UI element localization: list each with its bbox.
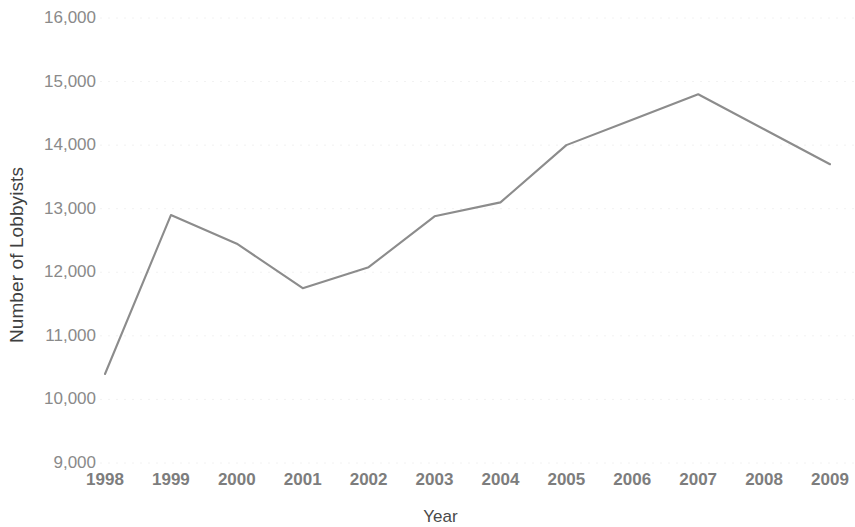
- y-tick-label: 15,000: [10, 73, 96, 90]
- y-tick-label: 9,000: [10, 454, 96, 471]
- y-tick-label: 11,000: [10, 327, 96, 344]
- x-tick-label: 2007: [679, 471, 717, 488]
- x-tick-label: 2003: [416, 471, 454, 488]
- x-axis-tick-labels: 1998199920002001200220032004200520062007…: [0, 471, 855, 497]
- y-tick-label: 12,000: [10, 263, 96, 280]
- x-tick-label: 2004: [482, 471, 520, 488]
- y-tick-label: 16,000: [10, 9, 96, 26]
- line-chart: 9,00010,00011,00012,00013,00014,00015,00…: [0, 0, 855, 527]
- x-tick-label: 2008: [745, 471, 783, 488]
- chart-plot-area: [0, 0, 855, 527]
- y-axis-tick-labels: 9,00010,00011,00012,00013,00014,00015,00…: [0, 0, 96, 527]
- y-tick-label: 13,000: [10, 200, 96, 217]
- x-tick-label: 2002: [350, 471, 388, 488]
- x-tick-label: 2001: [284, 471, 322, 488]
- y-tick-label: 10,000: [10, 390, 96, 407]
- x-tick-label: 1999: [152, 471, 190, 488]
- x-tick-label: 1998: [86, 471, 124, 488]
- y-tick-label: 14,000: [10, 136, 96, 153]
- x-tick-label: 2006: [613, 471, 651, 488]
- x-tick-label: 2000: [218, 471, 256, 488]
- data-series-group: [105, 94, 830, 374]
- x-tick-label: 2005: [547, 471, 585, 488]
- x-tick-label: 2009: [811, 471, 849, 488]
- x-axis-title-text: Year: [423, 508, 457, 525]
- data-line-series-0: [105, 94, 830, 374]
- x-axis-title: Year: [0, 508, 855, 525]
- gridlines: [100, 18, 855, 463]
